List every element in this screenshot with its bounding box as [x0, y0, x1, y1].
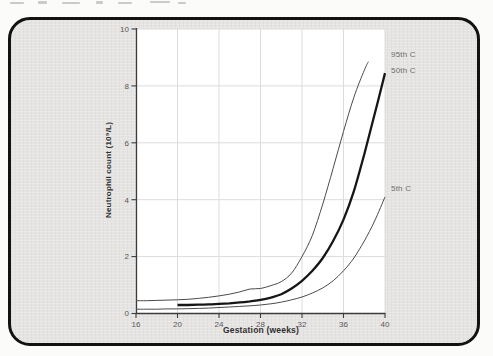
y-axis-label: Neutrophil count (10⁹/L)	[104, 85, 118, 255]
x-axis-label: Gestation (weeks)	[181, 325, 341, 335]
y-tick-label: 6	[125, 139, 130, 148]
y-tick-label: 2	[125, 252, 130, 261]
y-tick-label: 10	[120, 25, 129, 34]
curve-label-95th-centile: 95th C	[391, 50, 416, 59]
y-tick-label: 0	[125, 309, 130, 318]
curve-label-50th-centile: 50th C	[391, 66, 416, 75]
page: 162024283236400246810 Neutrophil count (…	[0, 0, 493, 356]
x-tick-label: 16	[132, 320, 141, 329]
y-tick-label: 8	[125, 82, 130, 91]
y-tick-label: 4	[125, 196, 130, 205]
curve-label-5th-centile: 5th C	[391, 184, 411, 193]
x-tick-label: 40	[381, 320, 390, 329]
chart-svg: 162024283236400246810	[0, 0, 493, 356]
